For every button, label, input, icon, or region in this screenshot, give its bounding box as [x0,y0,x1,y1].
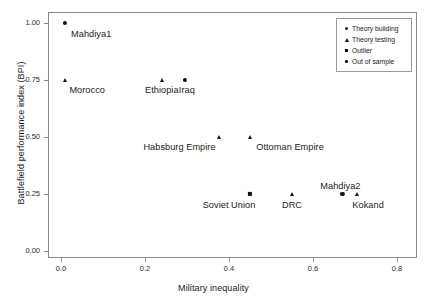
data-point-marker [217,135,221,139]
x-axis-title: Military inequality [0,283,427,293]
legend-item-dot[interactable]: Out of sample [342,56,407,67]
y-axis-title: Battlefield performance index (BPI) [16,8,26,258]
data-point-label: Habsburg Empire [143,142,215,152]
data-point-label: Ethiopia [145,85,179,95]
legend-item-label: Out of sample [352,58,394,65]
x-tick-label: 0.6 [293,264,333,273]
data-point-marker [290,192,294,196]
x-tick-mark [313,258,314,262]
data-point-marker [63,78,67,82]
square-marker-icon [342,49,351,53]
y-tick-mark [44,137,48,138]
x-tick-label: 0.2 [125,264,165,273]
triangle-marker-icon [342,38,351,42]
x-tick-mark [229,258,230,262]
y-tick-mark [44,80,48,81]
y-tick-mark [44,23,48,24]
x-tick-mark [61,258,62,262]
legend-item-label: Outlier [352,47,372,54]
legend-item-label: Theory testing [352,36,395,43]
data-point-label: Ottoman Empire [256,142,324,152]
x-tick-label: 0.8 [377,264,417,273]
y-tick-mark [44,251,48,252]
x-tick-mark [145,258,146,262]
data-point-marker [355,192,359,196]
data-point-marker [248,192,252,196]
dot-marker-icon [342,60,351,62]
scatter-plot-figure: 0.00.20.40.60.8 0.000.250.500.751.00 Mah… [0,0,427,305]
x-tick-mark [397,258,398,262]
data-point-label: Mahdiya1 [71,29,111,39]
legend-item-square[interactable]: Outlier [342,45,407,56]
data-point-label: Morocco [69,85,105,95]
data-point-marker [248,135,252,139]
data-point-label: Soviet Union [203,200,256,210]
data-point-marker [160,78,164,82]
x-tick-label: 0.0 [41,264,81,273]
data-point-label: Iraq [179,85,195,95]
legend-item-circle[interactable]: Theory building [342,23,407,34]
data-point-label: DRC [282,200,302,210]
data-point-label: Mahdiya2 [320,181,360,191]
chart-legend: Theory buildingTheory testingOutlierOut … [336,18,412,72]
x-tick-label: 0.4 [209,264,249,273]
data-point-label: Kokand [352,200,383,210]
legend-item-triangle[interactable]: Theory testing [342,34,407,45]
circle-marker-icon [342,27,351,31]
legend-item-label: Theory building [352,25,398,32]
y-tick-mark [44,194,48,195]
